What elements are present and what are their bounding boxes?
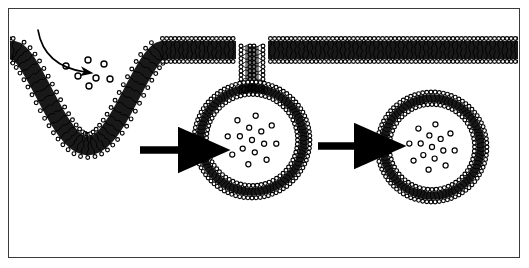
cargo-entry-arrow [38, 30, 85, 72]
endocytosis-diagram [0, 0, 529, 268]
budding-vesicle [192, 44, 312, 200]
figure-root [0, 0, 529, 268]
transition-arrows [140, 146, 363, 150]
cargo-particles [63, 57, 113, 89]
free-vesicle [375, 90, 489, 204]
